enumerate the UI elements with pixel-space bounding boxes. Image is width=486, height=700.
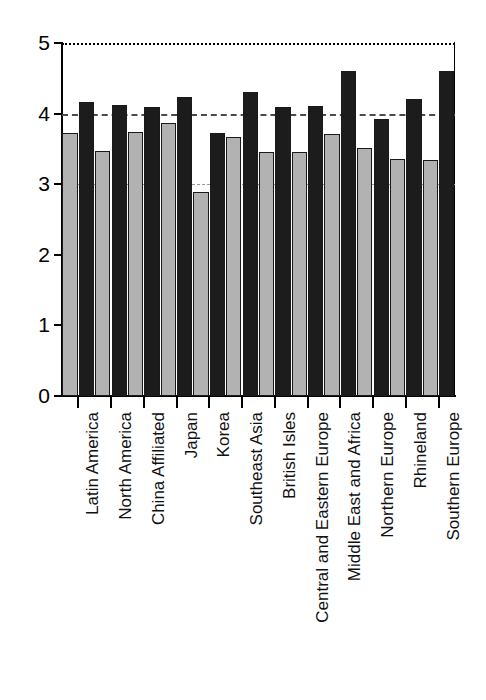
x-axis-label-10: Rhineland xyxy=(412,412,429,489)
reference-line-top-dotted xyxy=(62,43,455,45)
bar-series-a-6 xyxy=(259,152,274,396)
bar-series-a-3 xyxy=(161,123,176,396)
bar-series-a-4 xyxy=(193,192,208,396)
bar-chart: 543210 Latin AmericaNorth AmericaChina A… xyxy=(0,0,486,700)
x-axis-tick xyxy=(274,397,276,408)
x-axis-tick xyxy=(176,397,178,408)
x-axis-tick xyxy=(372,397,374,408)
bar-series-b-0 xyxy=(79,102,94,396)
x-axis-label-0: Latin America xyxy=(84,412,101,515)
y-axis-tick-label-text: 1 xyxy=(16,314,50,335)
bar-series-b-6 xyxy=(275,107,290,396)
y-axis-tick-label-text: 0 xyxy=(16,385,50,406)
bar-series-b-11 xyxy=(439,71,454,396)
x-axis-label-2: China Affiliated xyxy=(150,412,167,525)
y-axis-tick-label-text: 3 xyxy=(16,173,50,194)
bar-series-a-7 xyxy=(292,152,307,396)
y-axis-tick-label: 1 xyxy=(12,314,50,335)
x-axis-label-1: North America xyxy=(117,412,134,520)
x-axis-tick xyxy=(110,397,112,408)
y-axis-tick-label-text: 5 xyxy=(16,32,50,53)
bar-series-a-2 xyxy=(128,132,143,396)
bar-series-b-3 xyxy=(177,97,192,396)
bar-series-a-1 xyxy=(95,151,110,396)
bar-series-b-4 xyxy=(210,133,225,396)
bar-series-b-1 xyxy=(112,105,127,396)
y-axis-tick-label: 5 xyxy=(12,32,50,53)
bar-series-b-7 xyxy=(308,106,323,396)
bar-series-a-10 xyxy=(390,159,405,396)
bar-series-a-0 xyxy=(62,133,77,396)
bar-series-a-9 xyxy=(357,148,372,396)
x-axis-label-5: Southeast Asia xyxy=(248,412,265,525)
x-axis-label-6: British Isles xyxy=(281,412,298,499)
x-axis-label-7: Central and Eastern Europe xyxy=(314,412,331,623)
bar-series-b-8 xyxy=(341,71,356,396)
y-axis-tick-label: 2 xyxy=(12,244,50,265)
bar-series-a-8 xyxy=(324,134,339,396)
plot-area xyxy=(62,43,455,396)
y-axis-tick-label: 0 xyxy=(12,385,50,406)
y-axis-tick-label: 3 xyxy=(12,173,50,194)
bar-series-b-5 xyxy=(243,92,258,396)
x-axis-tick xyxy=(405,397,407,408)
y-axis-tick-label-text: 4 xyxy=(16,103,50,124)
bar-series-b-2 xyxy=(144,107,159,396)
x-axis-label-11: Southern Europe xyxy=(445,412,462,541)
x-axis-label-8: Middle East and Africa xyxy=(346,412,363,581)
bar-series-b-9 xyxy=(374,119,389,396)
x-axis-tick xyxy=(143,397,145,408)
x-axis-label-3: Japan xyxy=(183,412,200,458)
x-axis-label-4: Korea xyxy=(215,412,232,457)
x-axis-tick xyxy=(208,397,210,408)
bar-series-b-10 xyxy=(406,99,421,396)
x-axis-tick xyxy=(339,397,341,408)
y-axis-tick-label: 4 xyxy=(12,103,50,124)
bar-series-a-5 xyxy=(226,137,241,396)
x-axis-tick xyxy=(77,397,79,408)
x-axis-tick xyxy=(438,397,440,408)
x-axis-label-9: Northern Europe xyxy=(379,412,396,538)
bar-series-a-11 xyxy=(423,160,438,397)
x-axis-tick xyxy=(307,397,309,408)
y-axis-tick-label-text: 2 xyxy=(16,244,50,265)
x-axis-tick xyxy=(241,397,243,408)
